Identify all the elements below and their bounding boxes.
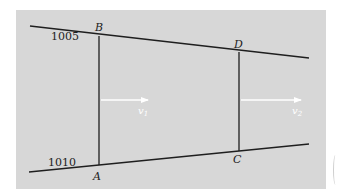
point-a-label: A [92, 170, 101, 183]
streamline-diagram: v1 v2 B D A C 1005 1010 [0, 0, 342, 196]
point-d-label: D [233, 38, 243, 51]
page-edge-artifact [333, 155, 338, 185]
bottom-boundary-value-label: 1010 [48, 156, 76, 169]
velocity-v2-label: v2 [292, 105, 303, 118]
point-b-label: B [94, 21, 103, 34]
top-boundary-value-label: 1005 [51, 30, 79, 43]
point-c-label: C [233, 153, 242, 166]
velocity-v1-label: v1 [138, 105, 148, 118]
